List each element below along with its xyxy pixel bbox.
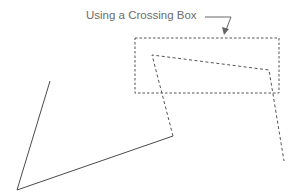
diagram-canvas — [0, 0, 299, 196]
dashed-polyline — [152, 55, 284, 161]
solid-polyline — [17, 81, 173, 190]
crossing-box-caption: Using a Crossing Box — [86, 9, 197, 21]
crossing-box — [135, 38, 279, 93]
callout-arrow-icon — [205, 17, 231, 35]
